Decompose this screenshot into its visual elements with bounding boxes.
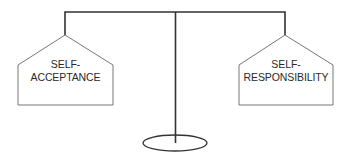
right-pan-label: SELF- RESPONSIBILITY	[237, 58, 335, 84]
right-pan-label-line2: RESPONSIBILITY	[237, 71, 335, 84]
right-pan-label-line1: SELF-	[237, 58, 335, 71]
left-pan-label: SELF- ACCEPTANCE	[18, 58, 113, 84]
left-pan-label-line1: SELF-	[18, 58, 113, 71]
left-pan-label-line2: ACCEPTANCE	[18, 71, 113, 84]
balance-scale-diagram: SELF- ACCEPTANCE SELF- RESPONSIBILITY	[0, 0, 351, 158]
